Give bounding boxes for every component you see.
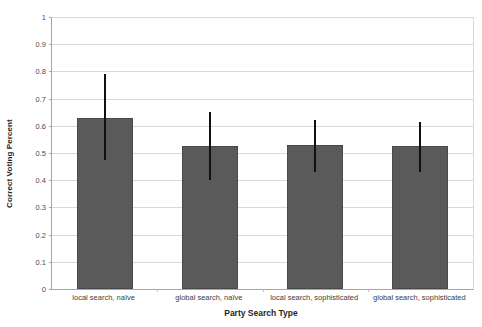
error-bar	[209, 112, 211, 180]
error-bar	[314, 120, 316, 172]
error-bar	[104, 74, 106, 160]
plot-area: 00.10.20.30.40.50.60.70.80.91	[51, 17, 474, 290]
y-tick-label: 0.6	[36, 121, 46, 130]
gridline	[52, 71, 473, 72]
gridline	[52, 17, 473, 18]
y-tick-mark	[49, 180, 52, 181]
y-tick-mark	[49, 289, 52, 290]
gridline	[52, 99, 473, 100]
y-tick-mark	[49, 17, 52, 18]
y-tick-mark	[49, 71, 52, 72]
y-tick-mark	[49, 153, 52, 154]
x-tick-mark	[157, 289, 158, 292]
y-tick-label: 0.9	[36, 40, 46, 49]
y-tick-mark	[49, 207, 52, 208]
y-tick-label: 0.3	[36, 203, 46, 212]
x-tick-mark	[263, 289, 264, 292]
x-tick-label: local search, sophisticated	[270, 293, 358, 302]
y-tick-label: 0.8	[36, 67, 46, 76]
x-tick-label: local search, naïve	[72, 293, 135, 302]
y-tick-mark	[49, 99, 52, 100]
x-tick-mark	[368, 289, 369, 292]
y-tick-label: 0.2	[36, 230, 46, 239]
y-axis-title: Correct Voting Percent	[0, 0, 18, 327]
x-tick-label: global search, naïve	[175, 293, 242, 302]
x-axis-title: Party Search Type	[40, 308, 482, 318]
y-tick-mark	[49, 126, 52, 127]
y-tick-label: 1	[42, 13, 46, 22]
x-tick-label: global search, sophisticated	[373, 293, 466, 302]
y-tick-label: 0.4	[36, 176, 46, 185]
y-tick-label: 0.1	[36, 257, 46, 266]
y-tick-mark	[49, 235, 52, 236]
y-tick-label: 0.7	[36, 94, 46, 103]
y-tick-mark	[49, 44, 52, 45]
y-tick-mark	[49, 262, 52, 263]
bar-chart: Correct Voting Percent 00.10.20.30.40.50…	[0, 0, 482, 327]
y-tick-label: 0.5	[36, 149, 46, 158]
gridline	[52, 44, 473, 45]
error-bar	[419, 122, 421, 172]
y-tick-label: 0	[42, 285, 46, 294]
